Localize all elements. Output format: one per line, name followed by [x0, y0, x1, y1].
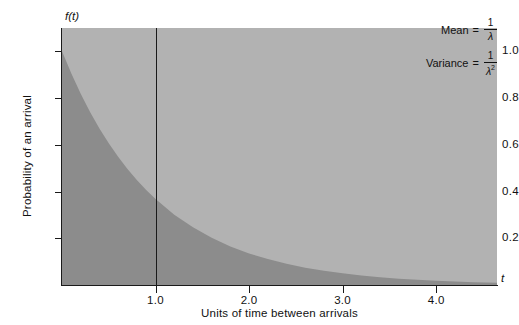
- annotation-mean: Mean = 1 λ: [426, 18, 497, 42]
- annotation-mean-fraction: 1 λ: [484, 18, 497, 42]
- x-axis-symbol-label: t: [501, 272, 504, 284]
- x-axis-title: Units of time between arrivals: [62, 307, 497, 319]
- annotation-mean-equals: =: [473, 24, 479, 36]
- y-tick-label: 0.8: [467, 91, 519, 103]
- y-axis-symbol-label: f(t): [65, 10, 79, 22]
- annotation-variance-denominator: λ2: [484, 63, 497, 76]
- annotation-mean-denominator: λ: [486, 30, 495, 42]
- variance-exponent: 2: [491, 64, 495, 71]
- x-tick-mark: [156, 286, 157, 293]
- x-tick-mark: [249, 286, 250, 293]
- y-tick-mark: [55, 145, 62, 146]
- y-tick-mark: [55, 192, 62, 193]
- x-tick-label: 2.0: [229, 294, 269, 306]
- annotation-variance-numerator: 1: [486, 51, 496, 62]
- annotation-variance-fraction: 1 λ2: [484, 51, 497, 76]
- x-tick-mark: [343, 286, 344, 293]
- annotation-variance: Variance = 1 λ2: [426, 51, 497, 76]
- statistics-annotation: Mean = 1 λ Variance = 1 λ2: [426, 18, 497, 85]
- y-tick-mark: [55, 51, 62, 52]
- x-axis-line: [61, 285, 498, 286]
- y-tick-label: 0.4: [467, 185, 519, 197]
- y-tick-label: 0.6: [467, 138, 519, 150]
- annotation-mean-label: Mean: [441, 24, 469, 36]
- exponential-distribution-figure: Probability of an arrival f(t) 1.00.80.6…: [0, 0, 519, 325]
- x-tick-label: 4.0: [416, 294, 456, 306]
- x-tick-label: 1.0: [136, 294, 176, 306]
- vertical-marker-line-t1: [156, 28, 158, 285]
- x-tick-label: 3.0: [323, 294, 363, 306]
- exponential-area-fill: [62, 51, 497, 285]
- y-tick-mark: [55, 98, 62, 99]
- annotation-mean-numerator: 1: [486, 18, 496, 29]
- y-axis-line: [61, 28, 62, 286]
- x-tick-mark: [436, 286, 437, 293]
- y-tick-label: 0.2: [467, 231, 519, 243]
- annotation-variance-equals: =: [472, 57, 478, 69]
- annotation-variance-label: Variance: [426, 57, 469, 69]
- y-axis-title: Probability of an arrival: [21, 61, 33, 251]
- y-tick-mark: [55, 238, 62, 239]
